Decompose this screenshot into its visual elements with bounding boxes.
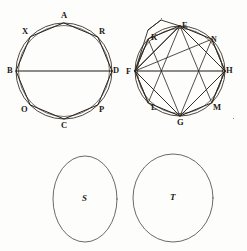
vertex-label-n: N [211,36,217,44]
vertex-label-m: M [213,103,221,112]
vertex-label-k: K [151,34,157,42]
vertex-label-a: A [61,11,67,20]
paper-speck [233,118,234,119]
vertex-label-g: G [177,118,184,127]
right-square-corner-edge [148,20,161,30]
bottom-plain-circles [53,154,213,242]
right-circumscribed-square-corner [135,20,180,71]
paper-speck [161,18,162,19]
right-diagonal-h-m [212,71,225,103]
vertex-label-h: H [226,66,233,75]
vertex-label-c: C [61,121,67,130]
vertex-label-f: F [126,67,131,76]
right-diagonal-f-l [135,71,148,103]
vertex-label-l: L [151,103,157,112]
right-diagonal-f-g [135,71,180,116]
figure-plate: A R D P C O B X E N H M G L F K S T [0,0,247,251]
vertex-label-x: X [22,27,28,36]
vertex-label-o: O [21,105,28,114]
vertex-label-r: R [99,27,105,36]
right-diagonal-h-e [180,26,225,71]
plate-drawing [0,0,247,251]
vertex-label-p: P [99,105,104,114]
plain-circle-label-s: S [82,194,87,203]
vertex-label-e: E [182,21,188,30]
plain-circle-label-t: T [170,193,176,202]
vertex-label-b: B [7,66,13,75]
left-octagon-figure [16,23,112,119]
vertex-label-d: D [113,66,119,75]
